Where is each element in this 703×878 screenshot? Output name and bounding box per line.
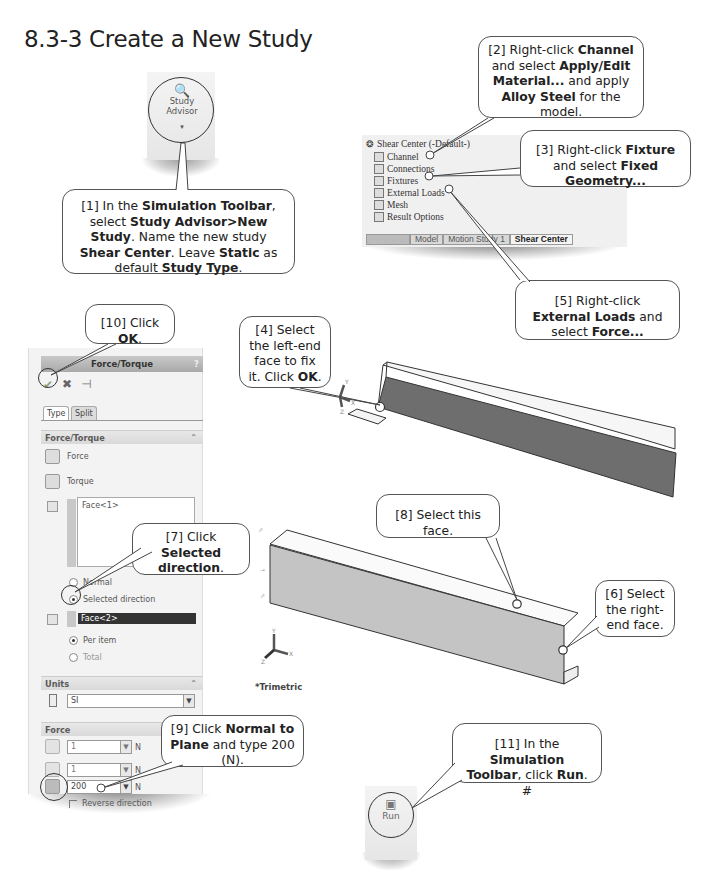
callout-3: [3] Right-click Fixture and select Fixed… [520,130,691,187]
svg-text:X: X [289,650,293,657]
callout-text: . [138,332,142,346]
callout-9: [9] Click Normal to Plane and type 200 (… [161,715,304,767]
callout-2: [2] Right-click Channel and select Apply… [478,36,644,118]
svg-text:→: → [260,566,265,573]
highlight-circle-normal-to-plane [40,773,68,801]
callout-text: and select [553,159,621,173]
callout-text: . [318,370,322,384]
study-advisor-label-2: Advisor [164,106,200,116]
callout-text: and select [492,59,560,73]
callout-emphasis: External Loads [533,310,636,324]
callout-text: , click [517,768,556,782]
callout-emphasis: Run [557,768,584,782]
callout-emphasis: Simulation Toolbar [142,199,272,213]
callout-text: [1] In the [81,199,142,213]
callout-text: [2] Right-click [488,43,578,57]
callout-text: . Name the new study [131,230,267,244]
svg-text:Z: Z [261,658,265,665]
callout-text: [7] Click [166,530,217,544]
callout-8: [8] Select this face. [376,494,500,538]
callout-text: [8] Select this face. [395,508,481,538]
highlight-circle-selected-direction [61,585,81,605]
callout-emphasis: Channel [578,43,634,57]
magnifier-icon: 🔍 [164,86,200,96]
callout-text: . Leave [171,246,219,260]
callout-emphasis: Shear Center [80,246,171,260]
callout-text: [11] In the [495,737,560,751]
callout-text: [6] Select the right-end face. [605,587,664,632]
callout-text: [5] Right-click [555,294,641,308]
run-icon: ▣ [372,797,410,811]
callout-11: [11] In the Simulation Toolbar, click Ru… [452,723,602,783]
study-advisor-label-1: Study [164,96,200,106]
callout-emphasis: Force... [592,325,644,339]
callout-text: and apply [564,74,629,88]
svg-text:Y: Y [271,627,276,634]
callout-emphasis: Study Type [162,261,239,275]
callout-10: [10] Click OK. [85,304,175,344]
callout-text: . [220,561,224,575]
callout-text: . [238,261,242,275]
svg-text:⇗: ⇗ [260,592,265,599]
callout-5: [5] Right-click External Loads and selec… [515,280,680,340]
callout-emphasis: Alloy Steel [501,90,575,104]
svg-text:⇗: ⇗ [258,526,263,533]
callout-text: and type 200 (N). [209,738,295,768]
callout-text: [10] Click [101,316,159,330]
run-label: Run [372,811,410,821]
highlight-circle-ok [38,368,58,388]
callout-7: [7] Click Selected direction. [132,523,250,575]
callout-emphasis: Fixture [625,143,675,157]
callout-emphasis: Static [219,246,259,260]
callout-emphasis: Selected direction [158,546,221,576]
callout-text: [9] Click [171,722,226,736]
callout-emphasis: OK [118,332,138,346]
coordinate-triad-icon: Y X Z [258,626,298,666]
callout-4: [4] Select the left-end face to fix it. … [239,316,331,388]
callout-emphasis: OK [298,370,318,384]
callout-1: [1] In the Simulation Toolbar, select St… [62,189,295,274]
callout-text: [3] Right-click [536,143,626,157]
chevron-down-icon[interactable]: ▾ [164,122,200,132]
callout-6: [6] Select the right-end face. [595,580,675,637]
